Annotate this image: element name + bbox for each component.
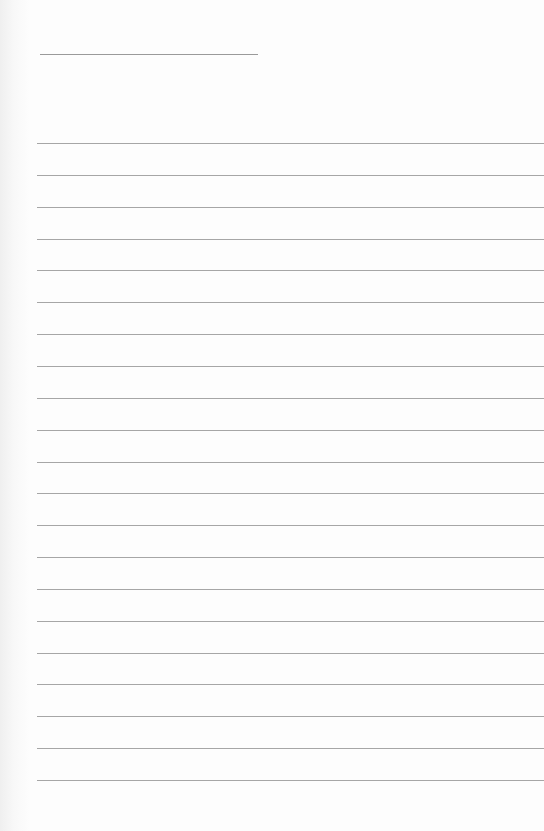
ruled-line <box>37 525 544 526</box>
ruled-line <box>37 207 544 208</box>
ruled-line <box>37 716 544 717</box>
ruled-line <box>37 589 544 590</box>
ruled-line <box>37 780 544 781</box>
ruled-line <box>37 270 544 271</box>
ruled-line <box>37 334 544 335</box>
ruled-line <box>37 430 544 431</box>
ruled-line <box>37 239 544 240</box>
name-line <box>40 54 258 55</box>
ruled-line <box>37 748 544 749</box>
ruled-line <box>37 143 544 144</box>
ruled-line <box>37 398 544 399</box>
ruled-line <box>37 653 544 654</box>
ruled-line <box>37 684 544 685</box>
lined-paper-page <box>0 0 544 831</box>
ruled-line <box>37 302 544 303</box>
ruled-line <box>37 621 544 622</box>
ruled-line <box>37 366 544 367</box>
ruled-line <box>37 557 544 558</box>
ruled-line <box>37 493 544 494</box>
ruled-line <box>37 462 544 463</box>
ruled-line <box>37 175 544 176</box>
